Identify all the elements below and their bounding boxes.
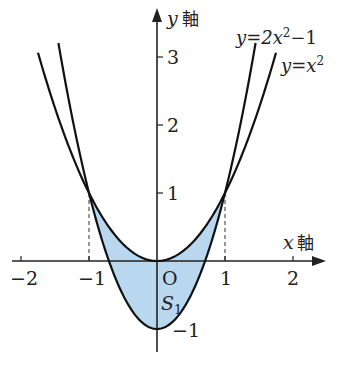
y-tick-2: 2 (167, 114, 179, 136)
origin-label: O (162, 267, 178, 289)
x-axis-kanji: 軸 (297, 233, 314, 253)
y-axis-kanji: 軸 (182, 9, 199, 29)
x-tick-1: 1 (220, 267, 232, 289)
parabola-region-diagram: y 軸 x 軸 3 2 1 −1 −2 −1 1 2 O S1 y=2x2−1 … (0, 0, 338, 365)
curve-label-x2: y=x2 (280, 54, 324, 76)
y-ticks (157, 57, 163, 193)
y-axis-arrow-icon (152, 8, 162, 22)
curve-label-2x2-minus-1: y=2x2−1 (235, 26, 317, 48)
x-tick-minus-1: −1 (78, 267, 106, 289)
y-tick-3: 3 (167, 46, 179, 68)
x-tick-2: 2 (287, 267, 299, 289)
x-tick-minus-2: −2 (10, 267, 38, 289)
y-axis-var: y (166, 7, 178, 29)
y-tick-1: 1 (167, 182, 179, 204)
y-tick-minus-1: −1 (172, 319, 200, 341)
x-axis-arrow-icon (312, 256, 326, 266)
x-axis-var: x (283, 231, 294, 253)
